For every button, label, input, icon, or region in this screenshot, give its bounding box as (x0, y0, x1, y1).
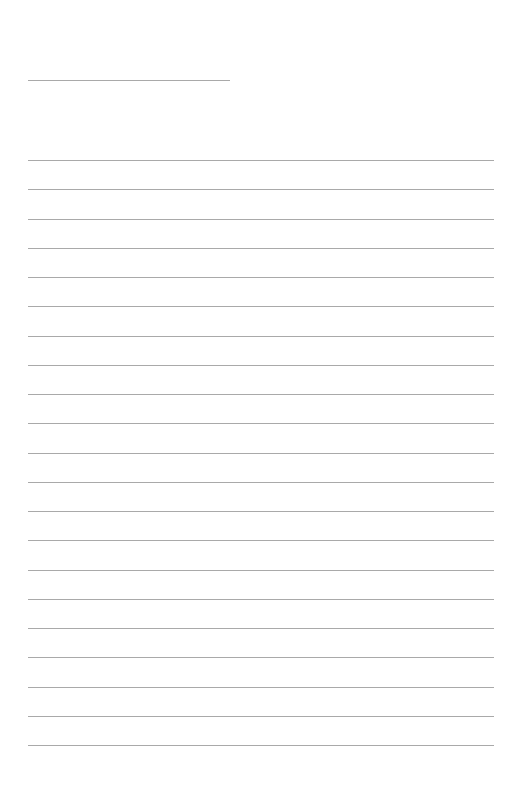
ruled-line (28, 570, 494, 571)
title-line (28, 80, 230, 81)
ruled-line (28, 248, 494, 249)
ruled-line (28, 219, 494, 220)
ruled-line (28, 160, 494, 161)
ruled-line (28, 745, 494, 746)
ruled-line (28, 277, 494, 278)
lined-paper-page (0, 0, 516, 799)
ruled-line (28, 189, 494, 190)
ruled-line (28, 628, 494, 629)
ruled-line (28, 716, 494, 717)
ruled-line (28, 540, 494, 541)
ruled-line (28, 482, 494, 483)
ruled-line (28, 336, 494, 337)
ruled-line (28, 599, 494, 600)
ruled-line (28, 306, 494, 307)
ruled-line (28, 365, 494, 366)
ruled-line (28, 394, 494, 395)
ruled-line (28, 687, 494, 688)
ruled-line (28, 423, 494, 424)
ruled-line (28, 453, 494, 454)
ruled-line (28, 511, 494, 512)
ruled-line (28, 657, 494, 658)
